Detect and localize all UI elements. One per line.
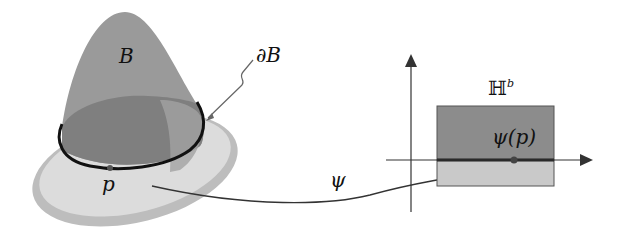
manifold-surface	[21, 12, 250, 237]
point-p	[107, 165, 113, 171]
boundary-label: ∂B	[256, 43, 281, 67]
image-point-label: ψ(p)	[492, 125, 536, 149]
point-label: p	[102, 172, 115, 196]
halfspace-label: ℍb	[488, 76, 514, 100]
manifold-label: B	[119, 44, 134, 68]
map-label: ψ	[330, 168, 346, 192]
point-psi-p	[511, 157, 518, 164]
halfspace-symbol: ℍ	[488, 76, 507, 100]
manifold-chart-diagram	[0, 0, 617, 237]
boundary-pointer	[208, 60, 253, 118]
halfspace-superscript: b	[507, 77, 514, 90]
